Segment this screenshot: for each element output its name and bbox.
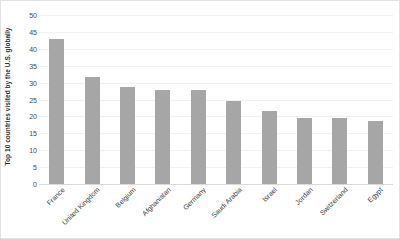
bar [191, 90, 206, 184]
y-tick-label: 30 [15, 79, 37, 86]
y-tick-label: 25 [15, 96, 37, 103]
x-tick-label: Jordan [293, 186, 313, 206]
x-tick-label: Israel [261, 186, 278, 203]
y-tick-label: 20 [15, 113, 37, 120]
y-axis-title-text: Top 10 countries visited by the U.S. glo… [5, 27, 12, 165]
bar [332, 118, 347, 184]
y-tick-label: 0 [15, 181, 37, 188]
x-tick-label: Belgium [114, 186, 137, 209]
y-tick-label: 5 [15, 164, 37, 171]
x-tick-label: Afghanistan [141, 186, 172, 217]
x-tick-label: Switzerland [318, 186, 349, 217]
y-axis-tick-labels: 05101520253035404550 [15, 15, 37, 184]
y-tick-label: 40 [15, 45, 37, 52]
x-tick-label: Saudi Arabia [210, 186, 243, 219]
bar-chart-figure: Top 10 countries visited by the U.S. glo… [0, 0, 400, 239]
bar [297, 118, 312, 184]
bar [120, 87, 135, 184]
x-tick-label: United Kingdom [61, 186, 101, 226]
bar [368, 121, 383, 184]
bar [226, 101, 241, 184]
axis-baseline [39, 184, 393, 185]
x-axis-tick-labels: FranceUnited KingdomBelgiumAfghanistanGe… [39, 186, 393, 239]
bar [262, 111, 277, 184]
bar [49, 39, 64, 184]
bars-layer [39, 15, 393, 184]
y-tick-label: 10 [15, 147, 37, 154]
plot-area [39, 15, 393, 184]
x-tick-label: France [45, 186, 65, 206]
y-tick-label: 35 [15, 62, 37, 69]
bar [155, 90, 170, 184]
x-tick-label: Egypt [367, 186, 385, 204]
x-tick-label: Germany [182, 186, 207, 211]
y-tick-label: 50 [15, 12, 37, 19]
y-tick-label: 15 [15, 130, 37, 137]
bar [85, 77, 100, 184]
y-axis-title: Top 10 countries visited by the U.S. glo… [1, 1, 15, 191]
y-tick-label: 45 [15, 28, 37, 35]
